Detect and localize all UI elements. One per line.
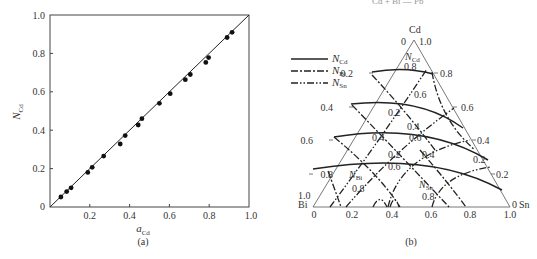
nsn-label-0.2: 0.2	[473, 154, 486, 165]
panel-a-caption: (a)	[137, 236, 148, 248]
panel-a-scatter-plot: 0 0.2 0.4 0.6 0.8 1.0 0.2 0.4 0.6 0.8 1.…	[10, 10, 257, 248]
data-point	[101, 154, 106, 159]
y-tick-1.0: 1.0	[33, 10, 46, 21]
data-point	[118, 142, 123, 147]
data-point	[64, 189, 69, 194]
y-tick-0.8: 0.8	[33, 48, 46, 59]
x-tick-0.2: 0.2	[84, 210, 97, 221]
data-point	[69, 185, 74, 190]
right-tick-0.2: 0.2	[496, 169, 509, 180]
vertex-label-sn: Sn	[519, 199, 530, 210]
right-tick-0.4: 0.4	[477, 135, 490, 146]
left-tick-0.4: 0.4	[321, 102, 334, 113]
vertex-label-cd: Cd	[409, 24, 421, 35]
bi-one-label: 1.0	[298, 190, 311, 201]
y-tick-0.2: 0.2	[33, 163, 46, 174]
data-point	[206, 55, 211, 60]
bottom-tick-0.8: 0.8	[464, 209, 477, 220]
nsn-label-0.6: 0.6	[409, 132, 422, 143]
nbi-label-0.6: 0.6	[388, 161, 401, 172]
x-tick-0.4: 0.4	[123, 210, 136, 221]
nsn-label-0.4: 0.4	[422, 149, 435, 160]
x-axis-title: aCd	[136, 222, 150, 237]
panel-b-caption: (b)	[405, 236, 417, 248]
nbi-label-0.2: 0.2	[388, 107, 401, 118]
bottom-tick-0: 0	[312, 209, 317, 220]
x-axis-tick-labels: 0.2 0.4 0.6 0.8 1.0	[84, 210, 258, 221]
y-tick-0.6: 0.6	[33, 86, 46, 97]
nbi-iso-curves	[328, 72, 475, 207]
diagonal-reference-line	[50, 15, 249, 207]
truncated-caption: Cd + Bi — Pb	[372, 0, 424, 6]
y-axis-tick-labels: 0 0.2 0.4 0.6 0.8 1.0	[33, 10, 46, 212]
ncd-label-0.6: 0.6	[414, 89, 427, 100]
x-tick-1.0: 1.0	[245, 210, 258, 221]
data-point	[157, 101, 162, 106]
data-point	[123, 133, 128, 138]
data-point	[168, 91, 173, 96]
data-point	[90, 165, 95, 170]
apex-one-label: 1.0	[419, 36, 432, 47]
ncd-label-0.4: 0.4	[407, 121, 420, 132]
nsn-label-0.8: 0.8	[422, 191, 435, 202]
nbi-label-0.8: 0.8	[352, 183, 365, 194]
ncd-curve-0.2	[313, 163, 502, 190]
panel-b-ternary-diagram: Cd 0 1.0 Bi 1.0 0 Sn 0.2 0.4 0.6 0.8 0.8…	[291, 24, 530, 248]
apex-zero-label: 0	[401, 36, 406, 47]
left-tick-0.8: 0.8	[321, 169, 334, 180]
y-tick-0: 0	[40, 201, 45, 212]
right-tick-0.8: 0.8	[440, 68, 453, 79]
data-point	[230, 30, 235, 35]
data-point	[136, 123, 141, 128]
figure-canvas: Cd + Bi — Pb 0 0.2 0.4 0.6 0.8 1.0 0.2	[0, 0, 537, 259]
x-tick-0.8: 0.8	[203, 210, 216, 221]
data-point	[203, 60, 208, 65]
data-point	[85, 170, 90, 175]
nbi-curve-0.6	[334, 137, 400, 207]
data-point	[59, 195, 64, 200]
y-tick-0.4: 0.4	[33, 125, 46, 136]
left-tick-0.6: 0.6	[301, 135, 314, 146]
data-point	[183, 77, 188, 82]
bottom-tick-0.6: 0.6	[425, 209, 438, 220]
bottom-tick-1.0: 1.0	[504, 209, 517, 220]
y-axis-title: NCd	[10, 104, 25, 121]
nbi-label-0.4: 0.4	[372, 132, 385, 143]
ncd-label-0.8: 0.8	[404, 61, 417, 72]
bottom-tick-0.4: 0.4	[386, 209, 399, 220]
data-point	[225, 35, 230, 40]
data-point	[188, 72, 193, 77]
right-tick-0.6: 0.6	[461, 102, 474, 113]
ncd-label-0.2: 0.2	[388, 149, 401, 160]
bottom-tick-0.2: 0.2	[346, 209, 359, 220]
x-tick-0.6: 0.6	[163, 210, 176, 221]
nsn-loop-0.4	[373, 200, 387, 208]
legend: NCd NBi NSn	[291, 52, 348, 90]
data-point	[140, 116, 145, 121]
